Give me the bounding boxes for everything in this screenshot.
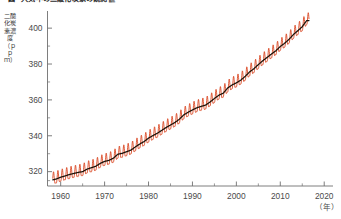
y-tick-label: 340: [19, 132, 43, 140]
x-tick-label: 2020: [307, 192, 341, 200]
x-tick-label: 2000: [219, 192, 253, 200]
figure-co2-observations: 図大気中の二酸化炭素の観測値 二酸化炭素濃度（ｐｐｍ） 400380360340…: [0, 0, 341, 219]
x-tick-label: 1990: [175, 192, 209, 200]
y-tick-label: 400: [19, 24, 43, 32]
x-tick-label: 1960: [44, 192, 78, 200]
x-tick-label: 2010: [263, 192, 297, 200]
x-axis-title: （年）: [315, 204, 339, 212]
y-tick-label: 380: [19, 60, 43, 68]
plot-area: [0, 0, 341, 219]
x-tick-label: 1970: [88, 192, 122, 200]
y-tick-label: 320: [19, 167, 43, 175]
x-tick-label: 1980: [132, 192, 166, 200]
series-trend-line: [53, 21, 309, 180]
y-tick-label: 360: [19, 96, 43, 104]
series-seasonal-line: [53, 13, 309, 184]
